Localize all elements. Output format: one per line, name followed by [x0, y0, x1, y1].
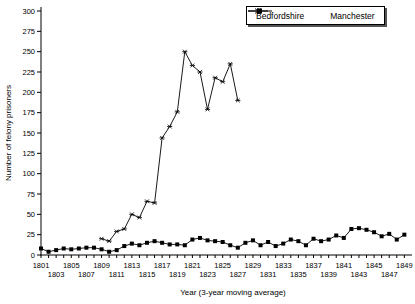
y-tick-label: 150 — [22, 129, 35, 138]
data-point-square — [349, 227, 353, 231]
legend: Bedfordshire Manchester — [246, 6, 385, 25]
y-tick-label: 25 — [27, 230, 35, 239]
data-point-square — [243, 241, 247, 245]
data-point-square — [130, 242, 134, 246]
data-point-square — [206, 238, 210, 242]
x-tick-label: 1835 — [290, 270, 307, 279]
data-point-square — [334, 233, 338, 237]
legend-item-manchester: Manchester — [330, 11, 374, 21]
x-tick-label: 1839 — [320, 270, 337, 279]
x-tick-label: 1811 — [109, 270, 125, 279]
data-point-square — [236, 246, 240, 250]
data-point-square — [100, 247, 104, 251]
x-tick-label: 1819 — [169, 270, 186, 279]
data-point-square — [312, 237, 316, 241]
axes — [40, 7, 412, 255]
data-point-square — [153, 239, 157, 243]
data-point-square — [62, 246, 66, 250]
data-point-square — [274, 244, 278, 248]
y-tick-label: 0 — [31, 251, 35, 260]
y-tick-label: 100 — [22, 169, 35, 178]
asterisk-marker-icon — [247, 7, 269, 15]
data-point-square — [198, 236, 202, 240]
x-axis-title: Year (3-year moving average) — [180, 288, 286, 297]
data-point-square — [251, 238, 255, 242]
data-point-square — [380, 234, 384, 238]
y-axis-title: Number of felony prisoners — [4, 85, 13, 181]
data-point-square — [145, 241, 149, 245]
x-tick-label: 1809 — [93, 261, 110, 270]
data-point-asterisk — [190, 64, 195, 68]
data-point-asterisk — [220, 80, 225, 84]
x-axis-ticks: 1801180318051807180918111813181518171819… — [33, 255, 413, 279]
x-tick-label: 1845 — [366, 261, 383, 270]
data-point-square — [281, 242, 285, 246]
data-point-asterisk — [114, 230, 119, 234]
data-point-square — [77, 246, 81, 250]
y-tick-label: 275 — [22, 27, 35, 36]
data-point-square — [266, 240, 270, 244]
y-tick-label: 75 — [27, 190, 35, 199]
data-point-square — [402, 233, 406, 237]
x-tick-label: 1837 — [305, 261, 322, 270]
x-tick-label: 1817 — [154, 261, 171, 270]
x-tick-label: 1827 — [229, 270, 246, 279]
y-axis-ticks: 0255075100125150175200225250275300 — [22, 7, 41, 260]
data-point-square — [115, 248, 119, 252]
felony-prisoners-chart: 0255075100125150175200225250275300180118… — [0, 0, 415, 304]
x-tick-label: 1847 — [381, 270, 398, 279]
data-point-square — [221, 240, 225, 244]
data-point-square — [327, 238, 331, 242]
x-tick-label: 1849 — [396, 261, 413, 270]
data-point-square — [213, 239, 217, 243]
data-point-square — [137, 243, 141, 247]
data-point-square — [39, 246, 43, 250]
data-point-asterisk — [129, 212, 134, 216]
chart-plot-area: 0255075100125150175200225250275300180118… — [0, 0, 415, 304]
x-tick-label: 1825 — [214, 261, 231, 270]
data-point-square — [183, 243, 187, 247]
data-point-asterisk — [122, 227, 127, 231]
y-tick-label: 300 — [22, 7, 35, 16]
data-point-square — [228, 243, 232, 247]
x-tick-label: 1805 — [63, 261, 80, 270]
x-tick-label: 1823 — [199, 270, 216, 279]
x-tick-label: 1833 — [275, 261, 292, 270]
y-tick-label: 125 — [22, 149, 35, 158]
x-tick-label: 1843 — [351, 270, 368, 279]
data-point-square — [122, 244, 126, 248]
y-tick-label: 50 — [27, 210, 35, 219]
series-bedfordshire — [39, 226, 406, 254]
data-point-square — [190, 238, 194, 242]
x-tick-label: 1831 — [260, 270, 277, 279]
data-point-square — [387, 232, 391, 236]
x-tick-label: 1803 — [48, 270, 65, 279]
data-point-square — [342, 236, 346, 240]
x-tick-label: 1801 — [33, 261, 50, 270]
y-tick-label: 200 — [22, 88, 35, 97]
y-tick-label: 175 — [22, 108, 35, 117]
data-point-square — [175, 242, 179, 246]
data-point-square — [304, 243, 308, 247]
data-point-asterisk — [167, 125, 172, 129]
data-point-square — [92, 246, 96, 250]
data-point-asterisk — [99, 237, 104, 241]
x-tick-label: 1821 — [184, 261, 201, 270]
x-tick-label: 1829 — [245, 261, 262, 270]
data-point-square — [168, 242, 172, 246]
series-manchester — [99, 50, 240, 243]
data-point-square — [357, 226, 361, 230]
x-tick-label: 1813 — [123, 261, 140, 270]
data-point-square — [69, 247, 73, 251]
y-tick-label: 250 — [22, 47, 35, 56]
data-point-square — [107, 250, 111, 254]
data-point-square — [259, 243, 263, 247]
data-point-square — [372, 230, 376, 234]
data-point-square — [160, 241, 164, 245]
legend-label-manchester: Manchester — [330, 11, 374, 21]
data-point-square — [84, 246, 88, 250]
x-tick-label: 1807 — [78, 270, 95, 279]
data-point-square — [365, 228, 369, 232]
data-point-square — [54, 248, 58, 252]
x-tick-label: 1815 — [139, 270, 156, 279]
